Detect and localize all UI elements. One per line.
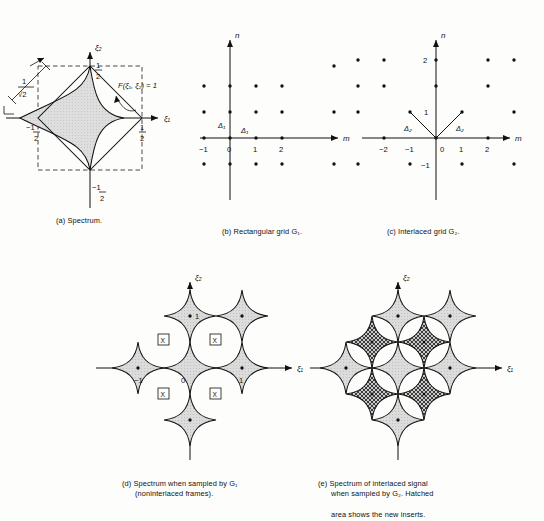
gap-marker-label: X — [213, 391, 218, 398]
lattice-dot — [254, 136, 257, 139]
lattice-dot — [408, 162, 411, 165]
lattice-dot — [228, 162, 231, 165]
replica-center-dot — [448, 366, 451, 369]
replica-center-dot — [448, 314, 451, 317]
panel-b-xtick-0: −1 — [199, 145, 208, 154]
lattice-dot — [254, 162, 257, 165]
panel-e-spectrum-g2: ξ₁ ξ₂ — [306, 238, 544, 466]
tick-ypos-den: 2 — [96, 72, 100, 81]
panel-c-ylabel: n — [441, 31, 446, 40]
panel-c-spacing-right: Δ₂ — [455, 124, 464, 133]
lattice-dot — [280, 84, 283, 87]
lattice-dot — [512, 110, 515, 113]
gap-marker: X — [210, 334, 221, 345]
lattice-dot — [382, 136, 385, 139]
gap-marker-label: X — [161, 337, 166, 344]
lattice-dot — [512, 58, 515, 61]
panel-e-replicas — [320, 290, 476, 446]
lattice-dot — [254, 110, 257, 113]
panel-c-xtick-1: −1 — [405, 145, 414, 154]
panel-b-axis-n-arrow — [227, 40, 233, 47]
lattice-dot — [486, 136, 489, 139]
lattice-dot — [486, 84, 489, 87]
axis-xi2-arrow — [87, 52, 93, 59]
panel-c-axis-n-arrow — [433, 40, 439, 47]
caption-panel-e-line1: (e) Spectrum of interlaced signal — [318, 479, 428, 488]
tick-yneg-num: −1 — [92, 183, 101, 192]
dimension-numerator: 1 — [22, 77, 26, 86]
gap-marker-label: X — [161, 391, 166, 398]
panel-a-xlabel: ξ₁ — [164, 114, 171, 123]
tick-yneg-den: 2 — [100, 194, 104, 203]
replica-center-dot — [396, 418, 399, 421]
panel-e-axis-xi2-arrow — [395, 282, 401, 289]
lattice-dot — [460, 162, 463, 165]
caption-panel-c: (c) Interlaced grid G₂. — [387, 216, 522, 237]
panel-c-xtick-0: −2 — [379, 145, 388, 154]
lattice-dot — [382, 84, 385, 87]
panel-a-tick-xpos: 1 2 — [139, 123, 146, 143]
panel-e-xlabel: ξ₁ — [507, 364, 514, 373]
lattice-dot — [332, 64, 335, 67]
panel-c-xtick-2: 0 — [440, 145, 444, 154]
replica-center-dot — [136, 366, 139, 369]
panel-a-spectrum: ξ₁ ξ₂ 1 2 −1 2 −1 2 1 2 F(ξ₁, — [0, 18, 186, 214]
lattice-dot — [434, 136, 437, 139]
spectrum-replica — [164, 342, 216, 394]
lattice-dot — [228, 110, 231, 113]
panel-b-ylabel: n — [235, 31, 240, 40]
replica-center-dot — [344, 366, 347, 369]
panel-e-ylabel: ξ₂ — [403, 273, 410, 282]
replica-center-dot — [240, 366, 243, 369]
lattice-dot — [228, 136, 231, 139]
panel-d-xlabel: ξ₁ — [297, 364, 304, 373]
lattice-dot — [460, 110, 463, 113]
panel-b-xtick-1: 0 — [227, 145, 231, 154]
panel-a-ylabel: ξ₂ — [95, 43, 102, 52]
caption-panel-c-text: (c) Interlaced grid G₂. — [387, 227, 460, 236]
lattice-dot — [434, 58, 437, 61]
tick-xpos-den: 2 — [140, 134, 144, 143]
lattice-dot — [280, 110, 283, 113]
panel-d-axis-xi2-arrow — [187, 282, 193, 289]
caption-panel-a: (a) Spectrum. — [56, 216, 166, 227]
gap-marker: X — [210, 388, 221, 399]
lattice-dot — [332, 110, 335, 113]
lattice-dot — [202, 162, 205, 165]
panel-b-spacing-x: Δ₁ — [240, 126, 249, 135]
panel-c-basis-vector-left — [410, 112, 436, 138]
panel-c-xtick-3: 1 — [459, 145, 463, 154]
tick-ypos-num: 1 — [96, 61, 100, 70]
lattice-dot — [280, 162, 283, 165]
lattice-dot — [332, 162, 335, 165]
lattice-dot — [356, 84, 359, 87]
region-value-label: F(ξ₁, ξ₂) = 1 — [118, 81, 157, 90]
axis-xi1-arrow — [151, 115, 158, 121]
panel-d-xtick-neg1: −1 — [134, 376, 143, 385]
lattice-dot — [356, 162, 359, 165]
panel-b-xlabel: m — [343, 134, 350, 143]
panel-c-xtick-4: 2 — [485, 145, 489, 154]
panel-c-ytick-1: 1 — [424, 108, 428, 117]
caption-panel-d-line2: (noninterlaced frames). — [122, 489, 287, 500]
lattice-dot — [202, 84, 205, 87]
lattice-dot — [254, 84, 257, 87]
tick-xneg-num: −1 — [26, 123, 35, 132]
panel-c-axis-m-arrow — [503, 135, 510, 141]
panel-b-lattice — [202, 64, 335, 165]
lattice-dot — [356, 58, 359, 61]
panel-d-xtick-0: 0 — [181, 376, 185, 385]
panel-b-rect-grid: m n −1 0 1 2 Δ₁ Δ₁ — [186, 18, 364, 214]
lattice-dot — [202, 136, 205, 139]
replica-center-dot — [396, 314, 399, 317]
panel-b-xtick-3: 2 — [279, 145, 283, 154]
panel-a-tick-yneg: −1 2 — [92, 183, 106, 203]
tick-xpos-num: 1 — [140, 123, 144, 132]
lattice-dot — [434, 84, 437, 87]
dimension-leader-arrow — [37, 58, 44, 63]
panel-b-axis-m-arrow — [331, 135, 338, 141]
replica-center-dot — [240, 314, 243, 317]
panel-c-ytick-neg1: −1 — [421, 161, 430, 170]
panel-c-xlabel: m — [515, 134, 522, 143]
caption-panel-e-line3: area shows the new inserts. — [318, 510, 503, 521]
